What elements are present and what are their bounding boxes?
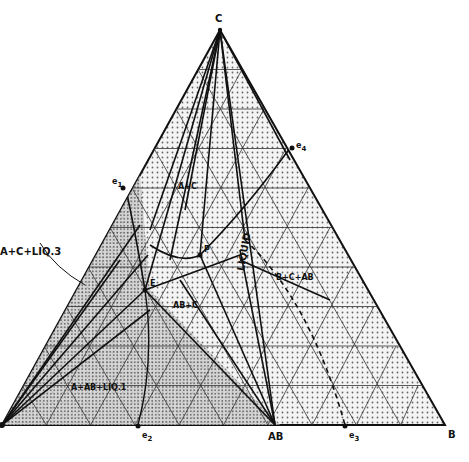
field-a-plus-c-label: A+C: [178, 183, 197, 191]
vertex-b-label: B: [448, 430, 456, 440]
field-ab-plus-c-label: AB+C: [173, 302, 198, 310]
e1-sub: 1: [117, 181, 122, 189]
point-p-label: P: [204, 246, 210, 254]
ternary-diagram: [0, 0, 469, 462]
field-liquid-label: LIQUID: [236, 270, 275, 280]
e4-label: e4: [296, 142, 306, 153]
e3-label: e3: [349, 432, 359, 443]
point-e-label: E: [150, 280, 155, 288]
e2-label: e2: [142, 432, 152, 443]
e4-sub: 4: [301, 145, 306, 153]
e1-label: e1: [112, 178, 122, 189]
field-a-c-liq3-label: A+C+LIQ.3: [0, 247, 61, 257]
field-a-ab-liq1-label: A+AB+LIQ.1: [71, 384, 126, 392]
vertex-c-label: C: [215, 14, 222, 24]
e3-sub: 3: [354, 435, 359, 443]
field-b-c-ab-label: B+C+AB: [276, 274, 314, 282]
e2-sub: 2: [147, 435, 152, 443]
compound-ab-label: AB: [268, 432, 283, 442]
